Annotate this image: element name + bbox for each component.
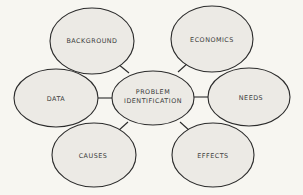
- node-data: DATA: [14, 69, 98, 127]
- node-effects: EFFECTS: [172, 123, 254, 187]
- node-effects-label: EFFECTS: [197, 152, 228, 160]
- node-economics: ECONOMICS: [171, 6, 253, 72]
- node-needs: NEEDS: [208, 68, 290, 126]
- node-causes-label: CAUSES: [79, 152, 108, 160]
- node-causes: CAUSES: [52, 123, 136, 187]
- node-data-label: DATA: [47, 95, 66, 103]
- node-background: BACKGROUND: [50, 8, 134, 74]
- node-problem-identification: PROBLEM IDENTIFICATION: [112, 71, 194, 125]
- mind-map-diagram: BACKGROUND ECONOMICS DATA PROBLEM IDENTI…: [0, 0, 303, 195]
- node-background-label: BACKGROUND: [66, 37, 117, 45]
- node-economics-label: ECONOMICS: [190, 36, 234, 44]
- center-label-line2: IDENTIFICATION: [124, 97, 182, 105]
- center-label-line1: PROBLEM: [136, 88, 170, 96]
- node-needs-label: NEEDS: [239, 94, 263, 102]
